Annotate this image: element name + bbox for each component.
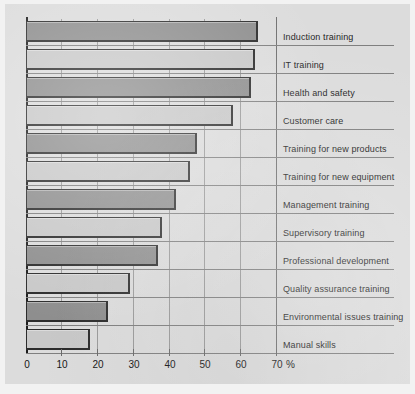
axis-unit-label: % (286, 359, 295, 370)
row-divider (26, 129, 394, 130)
bar-quality-assurance-training (26, 273, 130, 294)
row-divider (26, 185, 394, 186)
category-label-management-training: Management training (283, 200, 369, 210)
bar-chart-figure: Induction training IT training Health an… (0, 0, 415, 394)
category-label-training-for-new-equipment: Training for new equipment (283, 172, 394, 182)
row-divider (26, 241, 394, 242)
row-divider (26, 325, 394, 326)
xtick-label-0: 0 (24, 359, 30, 370)
category-label-health-and-safety: Health and safety (283, 88, 355, 98)
category-label-environmental-issues-training: Environmental issues training (283, 312, 403, 322)
bar-customer-care (26, 105, 233, 126)
row-divider (26, 45, 394, 46)
xtick-label-30: 30 (128, 359, 139, 370)
bar-training-for-new-products (26, 133, 197, 154)
xtick-label-70: 70 (271, 359, 282, 370)
category-label-training-for-new-products: Training for new products (283, 144, 387, 154)
xtick-label-20: 20 (92, 359, 103, 370)
bar-environmental-issues-training (26, 301, 108, 322)
category-label-quality-assurance-training: Quality assurance training (283, 284, 390, 294)
row-divider (26, 269, 394, 270)
xtick-label-60: 60 (235, 359, 246, 370)
row-divider (26, 101, 394, 102)
xtick-mark-30 (133, 349, 134, 356)
xtick-mark-70 (276, 349, 277, 356)
category-label-induction-training: Induction training (283, 32, 353, 42)
chart-panel: Induction training IT training Health an… (5, 4, 410, 384)
row-divider (26, 213, 394, 214)
category-label-professional-development: Professional development (283, 256, 389, 266)
xtick-mark-20 (97, 349, 98, 356)
row-divider (26, 353, 394, 354)
row-divider (26, 73, 394, 74)
bar-supervisory-training (26, 217, 162, 238)
category-label-it-training: IT training (283, 60, 324, 70)
bar-management-training (26, 189, 176, 210)
xtick-label-50: 50 (199, 359, 210, 370)
bar-manual-skills (26, 329, 90, 350)
row-divider (26, 157, 394, 158)
row-divider (26, 297, 394, 298)
bar-it-training (26, 49, 255, 70)
bar-health-and-safety (26, 77, 251, 98)
xtick-mark-40 (169, 349, 170, 356)
bar-induction-training (26, 21, 258, 42)
xtick-mark-60 (240, 349, 241, 356)
category-label-supervisory-training: Supervisory training (283, 228, 365, 238)
bar-professional-development (26, 245, 158, 266)
xtick-label-10: 10 (56, 359, 67, 370)
xtick-label-40: 40 (164, 359, 175, 370)
category-label-customer-care: Customer care (283, 116, 343, 126)
xtick-mark-50 (204, 349, 205, 356)
bar-training-for-new-equipment (26, 161, 190, 182)
xtick-mark-10 (61, 349, 62, 356)
category-label-manual-skills: Manual skills (283, 340, 336, 350)
